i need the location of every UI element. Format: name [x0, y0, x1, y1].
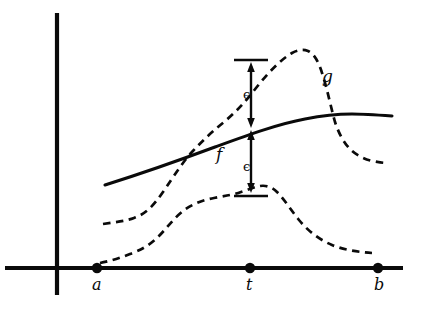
axis-point-b: [373, 263, 383, 273]
curve-g-lower: [100, 186, 372, 263]
epsilon-upper-arrow-head-bottom: [247, 118, 255, 128]
axis-label-b: b: [374, 277, 384, 293]
epsilon-upper-arrow-head-top: [247, 62, 255, 72]
curve-label-g: g: [322, 68, 333, 85]
axis-label-a: a: [92, 277, 102, 293]
axis-point-a: [92, 263, 102, 273]
epsilon-band-diagram: a t b f g ϵ ϵ: [0, 0, 421, 315]
curve-label-f: f: [216, 146, 222, 163]
axis-point-t: [245, 263, 255, 273]
axis-label-t: t: [246, 277, 252, 293]
epsilon-upper-label: ϵ: [243, 88, 250, 101]
diagram-canvas: [0, 0, 421, 315]
curve-f: [105, 114, 392, 185]
epsilon-lower-label: ϵ: [243, 160, 250, 173]
